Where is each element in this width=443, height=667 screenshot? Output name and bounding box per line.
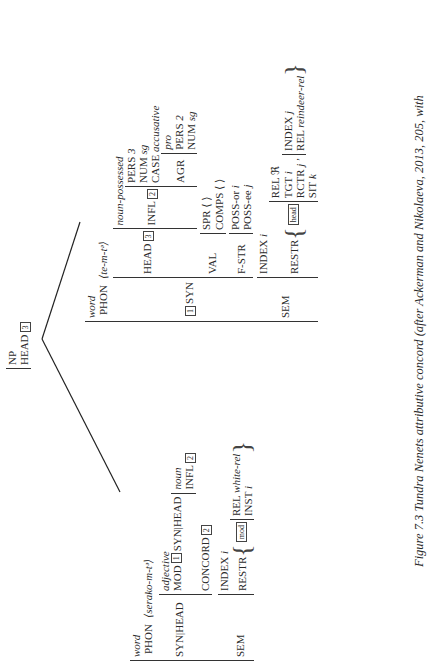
adj-mod-label: MOD [171, 565, 183, 591]
noun-phon-value: ⟨te-m-tᵊ⟩ [97, 238, 110, 282]
adj-phon-label: PHON [142, 621, 155, 657]
figure-caption: Figure 7.3 Tundra Nenets attributive con… [412, 95, 427, 567]
left-brace-icon: { [232, 544, 252, 556]
adj-mod-path: SYN|HEAD [171, 497, 183, 552]
noun-type: word [85, 8, 97, 318]
left-brace-icon: { [284, 227, 304, 239]
adj-restr-label: RESTR [236, 557, 248, 591]
adjective-avm: word PHON ⟨serako-m-tᵊ⟩ SYN|HEAD adjecti… [130, 402, 254, 661]
adj-head-avm: adjective MOD 1 SYN|HEAD noun INFL2 CONC… [159, 451, 212, 595]
right-brace-icon: } [284, 63, 304, 75]
noun-sem-avm: INDEX i RESTR { head REL ℜ TGT i RCTR j … [257, 63, 318, 278]
adj-mod-tag: 1 [171, 553, 182, 563]
adj-head-type: adjective [159, 451, 171, 591]
noun-syn-avm: HEAD3 noun-possessed INFL2 PERS 3 NUM sg… [113, 106, 253, 278]
noun-syn-label: 1SYN [113, 278, 196, 318]
noun-avm: word PHON ⟨te-m-tᵊ⟩ 1SYN HEAD3 noun-poss… [85, 8, 318, 322]
adj-mod-type: noun [171, 451, 183, 489]
adj-rel-value: white-rel [230, 454, 242, 493]
adj-phon-value: ⟨serako-m-tᵊ⟩ [142, 556, 155, 621]
figure-stage: NP HEAD3 word PHON ⟨serako-m-tᵊ⟩ SYN|HEA… [0, 0, 443, 667]
adj-concord-label: CONCORD [199, 537, 211, 591]
right-brace-icon: } [232, 441, 252, 453]
adj-type: word [130, 402, 142, 657]
adj-synhead-label: SYN|HEAD [159, 595, 185, 657]
adj-restr-tag: mod [236, 522, 247, 542]
adj-concord-tag: 2 [201, 525, 212, 535]
adj-sem-avm: INDEX i RESTR { mod REL white-rel INST i… [218, 441, 254, 595]
adj-infl-tag: 2 [185, 453, 196, 463]
adj-sem-label: SEM [218, 595, 246, 657]
